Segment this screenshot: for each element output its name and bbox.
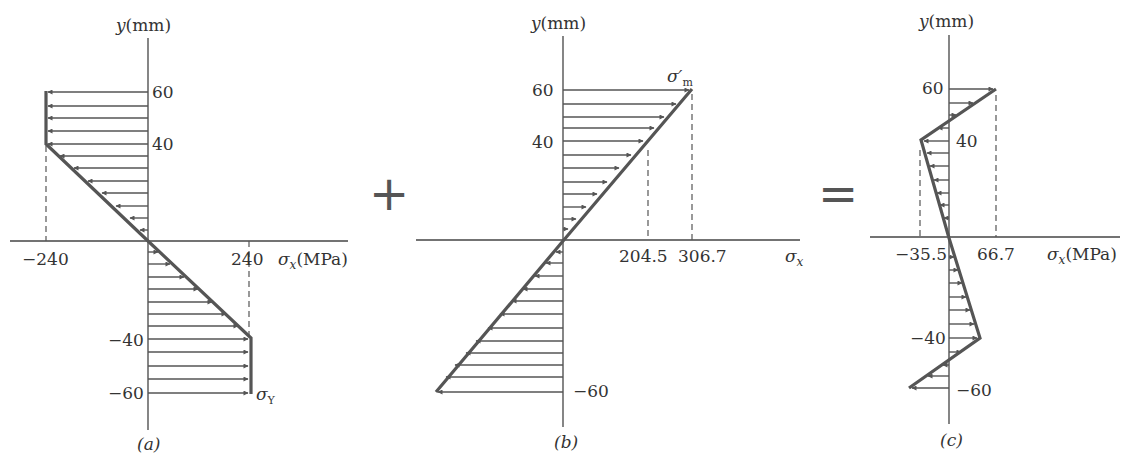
- y-tick-60: 60: [152, 82, 174, 102]
- x-axis-label: σx: [785, 246, 804, 269]
- x-tick-neg240: −240: [22, 249, 69, 269]
- stress-arrows-top: [563, 90, 689, 229]
- x-tick-240: 240: [231, 249, 263, 269]
- y-axis-label: y(mm): [115, 15, 171, 35]
- stress-superposition-diagram: y(mm) 60 40 −40 −60 −240 240 σx(MPa) σY …: [0, 0, 1128, 472]
- x-axis-label: σx(MPa): [1047, 244, 1117, 267]
- x-tick-neg35-5: −35.5: [895, 244, 947, 264]
- sigma-m-prime-annotation: σ′m: [667, 66, 693, 89]
- equals-operator: =: [818, 165, 858, 221]
- y-tick-neg60: −60: [956, 380, 992, 400]
- panel-c: y(mm) 60 40 −40 −60 −35.5 66.7 σx(MPa) (…: [870, 11, 1120, 450]
- y-tick-neg60: −60: [573, 381, 609, 401]
- y-tick-40: 40: [532, 132, 554, 152]
- y-tick-neg60: −60: [108, 383, 144, 403]
- y-tick-40: 40: [152, 134, 174, 154]
- y-tick-60: 60: [532, 80, 554, 100]
- sigma-y-annotation: σY: [256, 384, 276, 407]
- panel-caption-b: (b): [554, 432, 578, 452]
- y-axis-label: y(mm): [530, 13, 586, 33]
- y-tick-neg40: −40: [108, 330, 144, 350]
- y-axis-label: y(mm): [918, 11, 974, 31]
- plus-operator: +: [369, 165, 409, 221]
- x-tick-306-7: 306.7: [678, 246, 727, 266]
- panel-caption-c: (c): [940, 430, 963, 450]
- x-axis-label: σx(MPa): [278, 249, 348, 272]
- panel-a: y(mm) 60 40 −40 −60 −240 240 σx(MPa) σY …: [10, 15, 348, 454]
- x-tick-204-5: 204.5: [619, 246, 668, 266]
- y-tick-60: 60: [922, 78, 944, 98]
- y-tick-neg40: −40: [910, 328, 946, 348]
- x-tick-66-7: 66.7: [977, 244, 1015, 264]
- panel-b: y(mm) 60 40 −60 204.5 306.7 σx σ′m (b): [416, 13, 804, 452]
- y-tick-40: 40: [956, 131, 978, 151]
- stress-arrows-bottom: [438, 252, 563, 392]
- panel-caption-a: (a): [137, 434, 160, 454]
